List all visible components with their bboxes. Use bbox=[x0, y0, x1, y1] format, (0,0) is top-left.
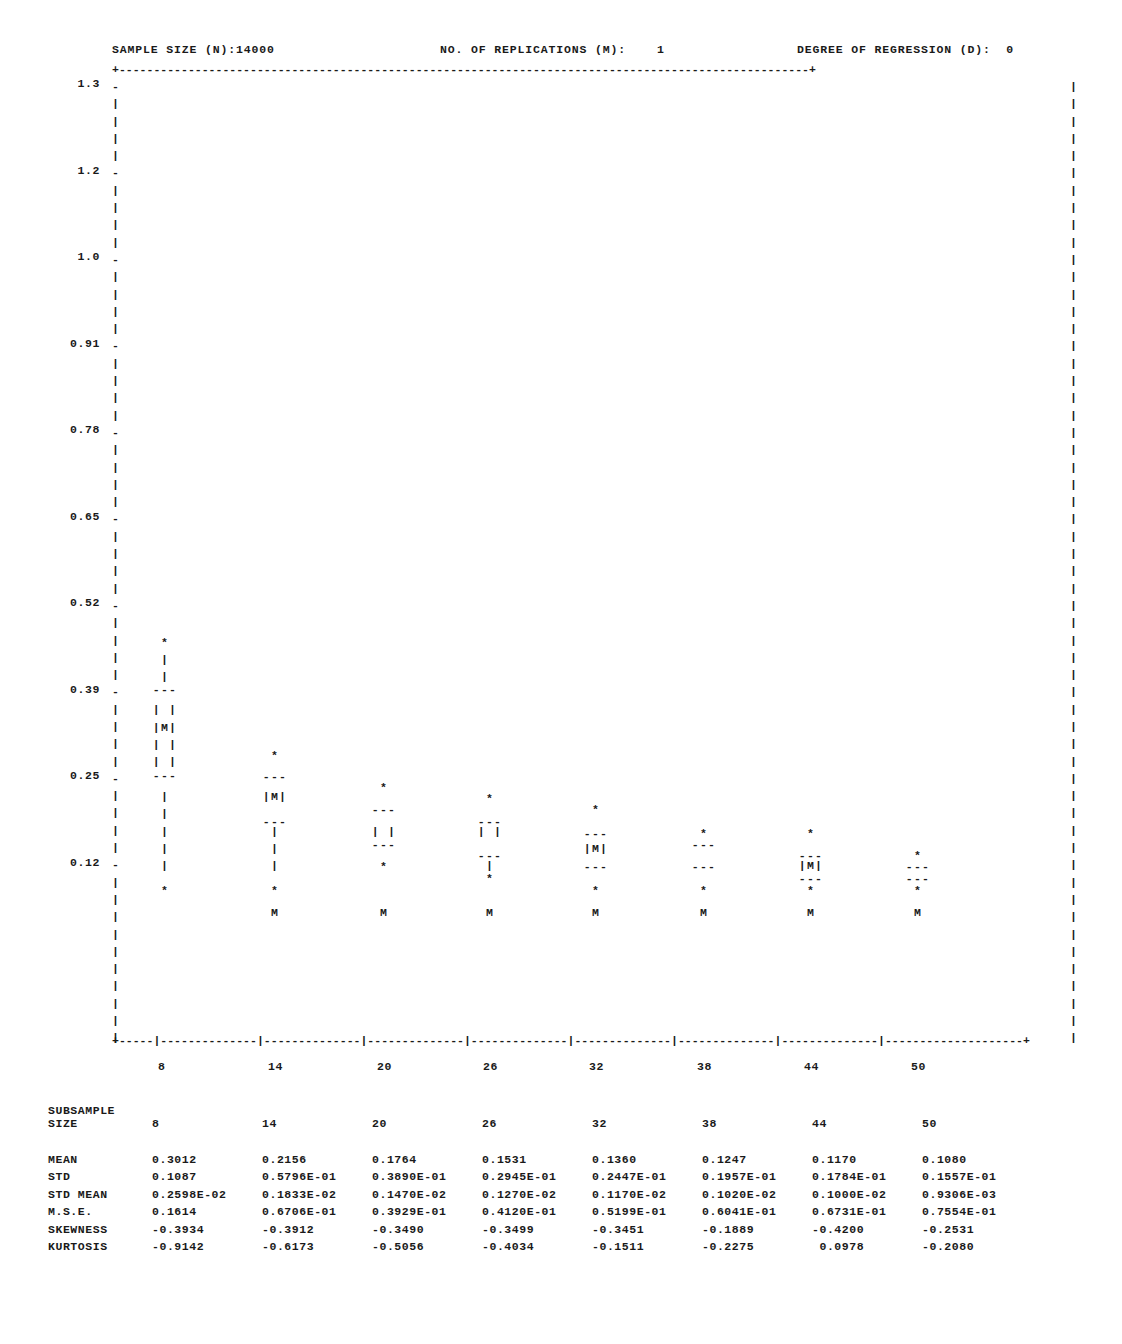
stat-label-skewness: SKEWNESS bbox=[48, 1223, 152, 1241]
box-14-lower-whisker-segment: | bbox=[271, 860, 279, 871]
size-word: SIZE bbox=[48, 1117, 152, 1135]
stat-label-m-s-e: M.S.E. bbox=[48, 1205, 152, 1223]
stat-value: 0.1764 bbox=[372, 1153, 482, 1171]
box-8-lower-whisker-segment: | bbox=[161, 860, 169, 871]
stat-value: 0.6731E-01 bbox=[812, 1205, 922, 1223]
box-14-median-marker: |M| bbox=[263, 790, 287, 801]
stats-table-body: MEAN0.30120.21560.17640.15310.13600.1247… bbox=[48, 1153, 1032, 1258]
box-14-lower-whisker-segment: | bbox=[271, 842, 279, 853]
subsample-word: SUBSAMPLE bbox=[48, 1104, 1108, 1117]
table-header-row: SIZE 8 14 20 26 32 38 44 50 bbox=[48, 1117, 1032, 1135]
column-header-38: 38 bbox=[702, 1117, 812, 1135]
stat-value: 0.0978 bbox=[812, 1240, 922, 1258]
stat-value: 0.2945E-01 bbox=[482, 1170, 592, 1188]
stat-value: -0.2080 bbox=[922, 1240, 1032, 1258]
stat-value: 0.6706E-01 bbox=[262, 1205, 372, 1223]
stat-value: 0.1087 bbox=[152, 1170, 262, 1188]
boxplot-glyph-layer: *||---| ||M|| || |---|||||**---|M|---|||… bbox=[0, 0, 1122, 1090]
stat-value: 0.2447E-01 bbox=[592, 1170, 702, 1188]
box-26-lower-whisker-segment: | bbox=[486, 860, 494, 871]
box-50-q3-line: --- bbox=[906, 861, 930, 872]
stat-value: 0.3890E-01 bbox=[372, 1170, 482, 1188]
stats-table: SIZE 8 14 20 26 32 38 44 50 MEAN0.30120.… bbox=[48, 1117, 1032, 1258]
box-50-extreme-marker: M bbox=[914, 907, 922, 918]
box-14-q3-line: --- bbox=[263, 770, 287, 781]
box-20-q3-line: --- bbox=[372, 804, 396, 815]
box-20-q1-line: --- bbox=[372, 838, 396, 849]
box-26-lower-outlier: * bbox=[486, 873, 494, 884]
box-8-q1-line: --- bbox=[153, 769, 177, 780]
stat-value: 0.1360 bbox=[592, 1153, 702, 1171]
stat-value: 0.3012 bbox=[152, 1153, 262, 1171]
table-spacer-row bbox=[48, 1135, 1032, 1153]
box-38-q1-line: --- bbox=[692, 861, 716, 872]
stat-value: 0.1531 bbox=[482, 1153, 592, 1171]
box-26-extreme-marker: M bbox=[486, 907, 494, 918]
stat-value: 0.5796E-01 bbox=[262, 1170, 372, 1188]
stat-value: 0.1270E-02 bbox=[482, 1188, 592, 1206]
box-8-upper-whisker-segment: | bbox=[161, 671, 169, 682]
table-row: MEAN0.30120.21560.17640.15310.13600.1247… bbox=[48, 1153, 1032, 1171]
table-row: SKEWNESS-0.3934-0.3912-0.3490-0.3499-0.3… bbox=[48, 1223, 1032, 1241]
lineprinter-boxplot-report: SAMPLE SIZE (N):14000 NO. OF REPLICATION… bbox=[0, 0, 1122, 1344]
box-50-lower-outlier: * bbox=[914, 884, 922, 895]
stat-label-mean: MEAN bbox=[48, 1153, 152, 1171]
box-8-lower-outlier: * bbox=[161, 884, 169, 895]
box-38-extreme-marker: M bbox=[700, 907, 708, 918]
column-header-32: 32 bbox=[592, 1117, 702, 1135]
box-8-lower-whisker-segment: | bbox=[161, 842, 169, 853]
box-8-lower-whisker-segment: | bbox=[161, 808, 169, 819]
stat-value: 0.9306E-03 bbox=[922, 1188, 1032, 1206]
box-44-upper-outlier: * bbox=[807, 827, 815, 838]
stat-value: -0.1889 bbox=[702, 1223, 812, 1241]
box-8-box-side-segment: | | bbox=[153, 756, 177, 767]
box-38-lower-outlier: * bbox=[700, 884, 708, 895]
stat-value: -0.1511 bbox=[592, 1240, 702, 1258]
box-8-q3-line: --- bbox=[153, 684, 177, 695]
box-8-upper-outlier: * bbox=[161, 636, 169, 647]
stat-value: -0.5056 bbox=[372, 1240, 482, 1258]
box-20-extreme-marker: M bbox=[380, 907, 388, 918]
box-14-lower-whisker-segment: | bbox=[271, 825, 279, 836]
stat-value: 0.5199E-01 bbox=[592, 1205, 702, 1223]
stat-value: 0.7554E-01 bbox=[922, 1205, 1032, 1223]
stat-value: -0.3490 bbox=[372, 1223, 482, 1241]
stat-value: 0.1170 bbox=[812, 1153, 922, 1171]
box-32-q1-line: --- bbox=[584, 861, 608, 872]
box-26-box-side-segment: | | bbox=[478, 825, 502, 836]
box-26-upper-outlier: * bbox=[486, 792, 494, 803]
box-32-median-marker: |M| bbox=[584, 842, 608, 853]
stat-value: -0.3934 bbox=[152, 1223, 262, 1241]
box-32-extreme-marker: M bbox=[592, 907, 600, 918]
box-14-upper-outlier: * bbox=[271, 749, 279, 760]
table-row: STD0.10870.5796E-010.3890E-010.2945E-010… bbox=[48, 1170, 1032, 1188]
box-32-upper-outlier: * bbox=[592, 804, 600, 815]
stat-value: -0.4034 bbox=[482, 1240, 592, 1258]
box-8-upper-whisker-segment: | bbox=[161, 653, 169, 664]
table-row: M.S.E.0.16140.6706E-010.3929E-010.4120E-… bbox=[48, 1205, 1032, 1223]
box-14-lower-outlier: * bbox=[271, 884, 279, 895]
stat-value: -0.9142 bbox=[152, 1240, 262, 1258]
stat-value: 0.1170E-02 bbox=[592, 1188, 702, 1206]
stat-value: -0.3912 bbox=[262, 1223, 372, 1241]
box-8-median-marker: |M| bbox=[153, 721, 177, 732]
stat-value: -0.6173 bbox=[262, 1240, 372, 1258]
stat-label-std: STD bbox=[48, 1170, 152, 1188]
column-header-14: 14 bbox=[262, 1117, 372, 1135]
box-14-extreme-marker: M bbox=[271, 907, 279, 918]
stat-value: -0.3499 bbox=[482, 1223, 592, 1241]
stat-value: 0.1957E-01 bbox=[702, 1170, 812, 1188]
stat-label-kurtosis: KURTOSIS bbox=[48, 1240, 152, 1258]
stat-value: 0.1247 bbox=[702, 1153, 812, 1171]
box-38-q3-line: --- bbox=[692, 838, 716, 849]
box-8-box-side-segment: | | bbox=[153, 704, 177, 715]
stat-value: -0.3451 bbox=[592, 1223, 702, 1241]
table-row: STD MEAN0.2598E-020.1833E-020.1470E-020.… bbox=[48, 1188, 1032, 1206]
stat-value: 0.1020E-02 bbox=[702, 1188, 812, 1206]
column-header-20: 20 bbox=[372, 1117, 482, 1135]
stat-value: 0.2598E-02 bbox=[152, 1188, 262, 1206]
stat-value: 0.4120E-01 bbox=[482, 1205, 592, 1223]
box-8-box-side-segment: | | bbox=[153, 739, 177, 750]
table-row: KURTOSIS-0.9142-0.6173-0.5056-0.4034-0.1… bbox=[48, 1240, 1032, 1258]
stat-label-std-mean: STD MEAN bbox=[48, 1188, 152, 1206]
